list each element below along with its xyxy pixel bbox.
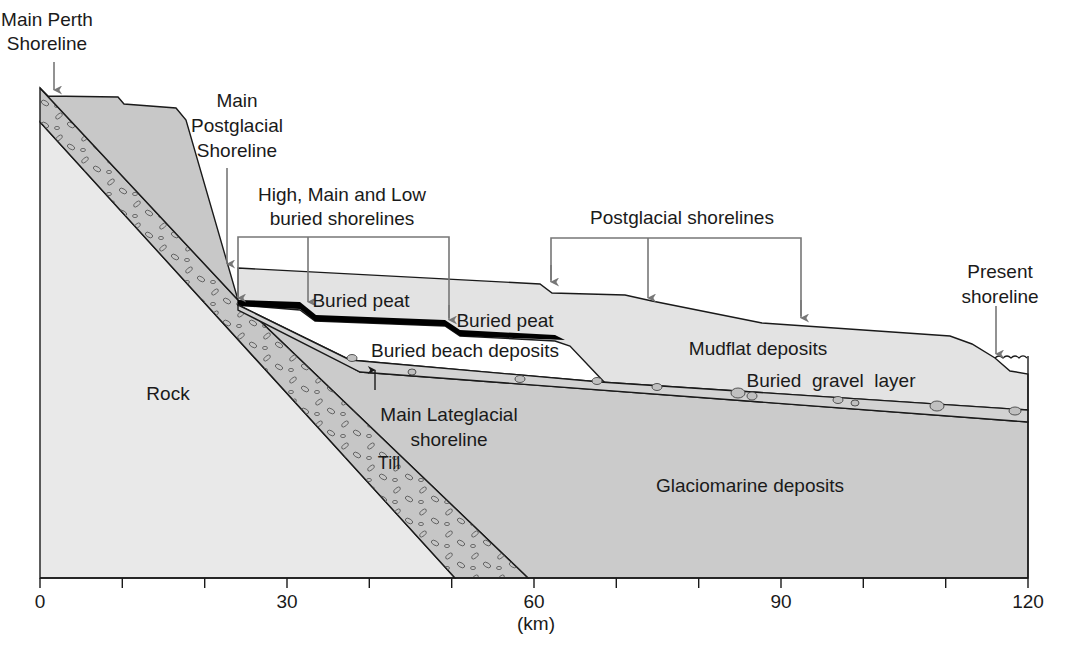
label-main-lateglacial-1: Main Lateglacial [380, 404, 517, 425]
x-axis-unit: (km) [517, 613, 555, 634]
label-buried-beach: Buried beach deposits [371, 340, 559, 361]
label-main-postglacial-1: Main [216, 90, 257, 111]
x-axis [40, 578, 1028, 588]
label-glaciomarine: Glaciomarine deposits [656, 475, 844, 496]
x-tick-60: 60 [523, 591, 544, 612]
x-tick-30: 30 [276, 591, 297, 612]
label-till: Till [378, 453, 400, 473]
label-gravel: Buried gravel layer [747, 370, 917, 391]
label-main-postglacial-2: Postglacial [191, 115, 283, 136]
label-main-postglacial-3: Shoreline [197, 140, 277, 161]
x-tick-90: 90 [770, 591, 791, 612]
label-buried-peat-upper: Buried peat [312, 290, 410, 311]
label-buried-shorelines-2: buried shorelines [270, 208, 415, 229]
cross-section-diagram: 0 30 60 90 120 (km) Main Perth Shoreline… [0, 0, 1072, 659]
label-buried-shorelines-1: High, Main and Low [258, 184, 426, 205]
label-main-perth-2: Shoreline [7, 33, 87, 54]
water-surface [995, 356, 1027, 358]
label-main-lateglacial-2: shoreline [410, 429, 487, 450]
label-mudflat: Mudflat deposits [689, 338, 827, 359]
label-postglacial-shorelines: Postglacial shorelines [590, 207, 774, 228]
x-tick-0: 0 [35, 591, 46, 612]
label-present-shoreline-2: shoreline [961, 286, 1038, 307]
label-buried-peat-lower: Buried peat [456, 310, 554, 331]
x-tick-120: 120 [1012, 591, 1044, 612]
label-main-perth: Main Perth [1, 9, 93, 30]
label-present-shoreline-1: Present [967, 261, 1033, 282]
label-rock: Rock [146, 383, 190, 404]
